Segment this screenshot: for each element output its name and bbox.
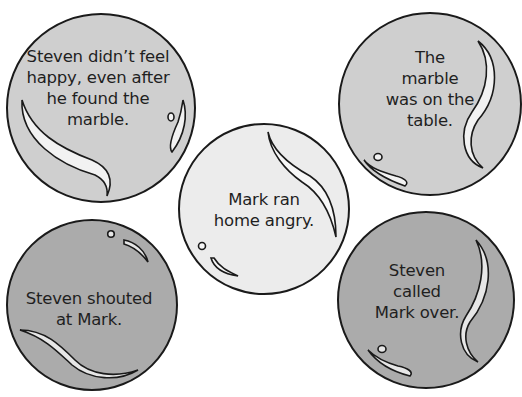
shine-dot-icon [199, 243, 206, 250]
marble-story-worksheet: Steven didn’t feel happy, even after he … [0, 0, 522, 397]
marble-text-middle: Mark ran home angry. [214, 189, 314, 231]
shine-dot-icon [108, 231, 115, 238]
marble-text-bottom-left: Steven shouted at Mark. [26, 288, 153, 330]
marble-text-top-left: Steven didn’t feel happy, even after he … [26, 46, 169, 130]
shine-dot-icon [378, 346, 386, 353]
shine-dot-icon [374, 154, 382, 161]
marble-text-top-right: The marble was on the table. [384, 47, 476, 131]
marble-text-bottom-right: Steven called Mark over. [365, 260, 470, 323]
